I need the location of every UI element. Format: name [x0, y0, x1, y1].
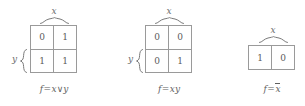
cell-r1c0: 1: [31, 50, 54, 74]
top-variable-label-x: x: [46, 7, 62, 16]
cell-r1c1: 1: [54, 50, 77, 74]
cell-r0c1: 1: [54, 26, 77, 50]
caption-formula: f=xy: [128, 85, 210, 94]
caption-formula: f=x: [231, 85, 305, 94]
cell-r0c0: 0: [31, 26, 54, 50]
cell-r0c0: 1: [249, 46, 272, 70]
caption-equals: =: [161, 84, 170, 94]
caption-rhs-negated: x: [275, 83, 280, 94]
top-variable-label-x: x: [265, 26, 281, 35]
cell-r0c1: 0: [272, 46, 295, 70]
karnaugh-map-figure: x y 0 1 1 1 f=x∨y x y: [0, 0, 305, 106]
top-variable-label-x: x: [161, 7, 177, 16]
truth-grid: 0 1 1 1: [30, 25, 77, 73]
left-variable-label-y: y: [12, 55, 17, 64]
left-brace-icon: [136, 49, 143, 73]
top-brace-icon: [40, 17, 69, 24]
top-brace-icon: [259, 36, 288, 43]
truth-grid: 0 0 0 1: [145, 25, 192, 73]
caption-rhs: y: [63, 84, 68, 94]
left-variable-label-y: y: [128, 55, 133, 64]
cell-r0c0: 0: [146, 26, 169, 50]
left-brace-icon: [20, 49, 27, 73]
caption-equals: =: [43, 84, 52, 94]
truth-grid: 1 0: [248, 45, 295, 70]
top-brace-icon: [155, 17, 184, 24]
cell-r0c1: 0: [169, 26, 192, 50]
cell-r1c0: 0: [146, 50, 169, 74]
caption-formula: f=x∨y: [13, 85, 95, 94]
cell-r1c1: 1: [169, 50, 192, 74]
caption-rhs: y: [175, 84, 180, 94]
